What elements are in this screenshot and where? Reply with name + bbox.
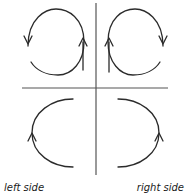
lower-right-arc (118, 99, 163, 167)
upper-left-loop (24, 9, 87, 75)
upper-right-loop (105, 9, 167, 75)
lower-left-arc (28, 99, 73, 167)
flow-diagram (0, 0, 187, 196)
upper-left-loop-path (28, 9, 84, 75)
caption-left-side: left side (4, 182, 44, 194)
lower-right-arc-path (118, 99, 159, 167)
axes-group (22, 3, 168, 175)
lower-left-arc-path (32, 99, 73, 167)
figure-root: left side right side (0, 0, 187, 196)
upper-right-loop-path (108, 9, 163, 75)
caption-right-side: right side (137, 182, 184, 194)
